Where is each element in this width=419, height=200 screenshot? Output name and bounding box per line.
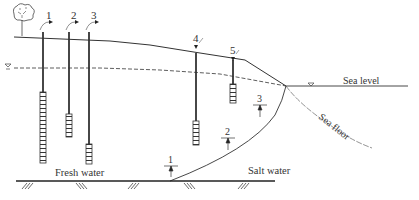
svg-text:2: 2	[225, 126, 230, 137]
well-2: 2	[66, 9, 79, 137]
well-2-label: 2	[71, 9, 77, 21]
well-4: 4	[193, 32, 203, 145]
water-table	[14, 68, 286, 86]
ground-hatch	[22, 183, 249, 189]
saltwater-intrusion-diagram: Sea level Sea floor 1 2 3	[0, 0, 419, 200]
salt-water-label: Salt water	[248, 165, 291, 176]
sea-level-label: Sea level	[343, 75, 380, 86]
well-5: 5	[230, 44, 239, 103]
interface-marker-3: 3	[253, 93, 267, 117]
svg-text:3: 3	[257, 93, 262, 104]
sea-floor-label: Sea floor	[317, 111, 353, 142]
well-1: 1	[40, 9, 53, 163]
fresh-water-label: Fresh water	[55, 167, 105, 178]
well-3-label: 3	[91, 9, 97, 21]
well-1-label: 1	[46, 9, 52, 21]
well-3: 3	[86, 9, 99, 164]
well-4-label: 4	[193, 32, 199, 44]
svg-text:1: 1	[168, 154, 173, 165]
water-table-symbol	[5, 64, 11, 69]
interface-marker-1: 1	[164, 154, 178, 177]
interface-marker-2: 2	[221, 126, 235, 150]
tree-icon	[13, 4, 34, 36]
well-5-label: 5	[230, 44, 236, 56]
